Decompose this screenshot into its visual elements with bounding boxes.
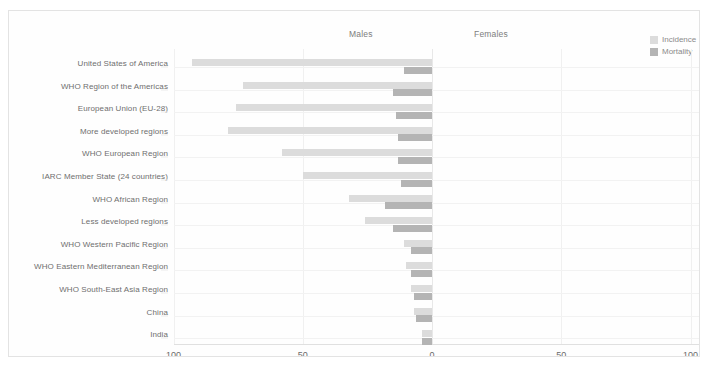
category-label: WHO African Region <box>92 194 168 203</box>
bar-incidence[interactable] <box>414 308 432 315</box>
bar-mortality[interactable] <box>404 67 432 74</box>
category-label: WHO Western Pacific Region <box>61 239 168 248</box>
category-leader-line <box>161 315 168 316</box>
category-label: More developed regions <box>80 126 168 135</box>
gridline-horizontal <box>174 67 700 68</box>
bar-mortality[interactable] <box>393 89 432 96</box>
bar-mortality[interactable] <box>398 134 432 141</box>
gridline-horizontal <box>174 248 700 249</box>
category-label: Less developed regions <box>81 217 168 226</box>
panel-header-males: Males <box>349 29 373 39</box>
value-axis: 10050050100 <box>174 344 700 357</box>
category-leader-line <box>161 180 168 181</box>
legend-item-incidence[interactable]: Incidence <box>650 34 700 45</box>
panel-header-females: Females <box>474 29 508 39</box>
category-label: European Union (EU-28) <box>78 104 168 113</box>
bar-mortality[interactable] <box>416 315 432 322</box>
category-leader-line <box>161 67 168 68</box>
gridline-horizontal <box>174 112 700 113</box>
bar-incidence[interactable] <box>406 262 432 269</box>
bar-incidence[interactable] <box>228 127 432 134</box>
category-label: WHO Eastern Mediterranean Region <box>34 262 168 271</box>
category-axis: United States of AmericaWHO Region of th… <box>9 49 168 344</box>
bar-mortality[interactable] <box>401 180 432 187</box>
bar-incidence[interactable] <box>365 217 432 224</box>
category-label: WHO Region of the Americas <box>61 81 168 90</box>
axis-tick-label: 50 <box>298 350 308 357</box>
gridline-vertical <box>561 49 562 344</box>
gridline-vertical <box>691 49 692 344</box>
bar-incidence[interactable] <box>303 172 432 179</box>
gridline-horizontal <box>174 135 700 136</box>
gridline-horizontal <box>174 316 700 317</box>
plot-area <box>174 49 700 344</box>
bar-mortality[interactable] <box>393 225 432 232</box>
category-leader-line <box>161 134 168 135</box>
category-leader-line <box>161 225 168 226</box>
gridline-vertical <box>174 49 175 344</box>
legend-swatch-incidence <box>650 36 658 44</box>
category-leader-line <box>161 293 168 294</box>
gridline-horizontal <box>174 338 700 339</box>
axis-tick-label: 50 <box>556 350 566 357</box>
category-leader-line <box>161 89 168 90</box>
bar-incidence[interactable] <box>411 285 432 292</box>
legend-label-incidence: Incidence <box>662 35 696 44</box>
bar-incidence[interactable] <box>349 195 432 202</box>
chart-figure: Males Females Incidence Mortality United… <box>8 10 700 357</box>
bar-mortality[interactable] <box>385 202 432 209</box>
bar-incidence[interactable] <box>282 149 432 156</box>
bar-mortality[interactable] <box>396 112 432 119</box>
gridline-horizontal <box>174 157 700 158</box>
bar-incidence[interactable] <box>192 59 432 66</box>
category-leader-line <box>161 270 168 271</box>
zero-axis-line <box>432 49 433 344</box>
gridline-vertical <box>303 49 304 344</box>
bar-mortality[interactable] <box>414 293 432 300</box>
category-leader-line <box>161 112 168 113</box>
bar-incidence[interactable] <box>243 82 432 89</box>
category-label: WHO South-East Asia Region <box>59 285 168 294</box>
bar-mortality[interactable] <box>411 247 432 254</box>
gridline-horizontal <box>174 203 700 204</box>
gridline-horizontal <box>174 225 700 226</box>
axis-tick-label: 100 <box>683 350 698 357</box>
category-leader-line <box>161 247 168 248</box>
category-leader-line <box>161 202 168 203</box>
gridline-horizontal <box>174 90 700 91</box>
category-label: United States of America <box>78 59 168 68</box>
category-label: WHO European Region <box>82 149 168 158</box>
bar-mortality[interactable] <box>398 157 432 164</box>
category-leader-line <box>161 338 168 339</box>
gridline-horizontal <box>174 180 700 181</box>
axis-tick-label: 0 <box>429 350 434 357</box>
bar-incidence[interactable] <box>422 330 432 337</box>
bar-incidence[interactable] <box>404 240 432 247</box>
bar-mortality[interactable] <box>411 270 432 277</box>
bar-incidence[interactable] <box>236 104 432 111</box>
gridline-horizontal <box>174 270 700 271</box>
category-label: IARC Member State (24 countries) <box>42 172 168 181</box>
gridline-horizontal <box>174 293 700 294</box>
category-leader-line <box>161 157 168 158</box>
axis-tick-label: 100 <box>166 350 181 357</box>
